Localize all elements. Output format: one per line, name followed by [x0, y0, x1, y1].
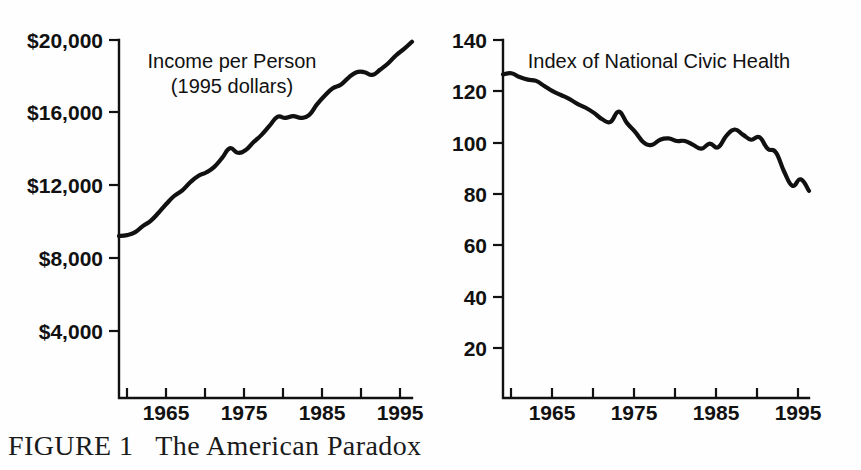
civic-y-tick-label: 40 [464, 286, 487, 309]
income-x-tick-marks [127, 388, 400, 398]
civic-x-tick-marks [511, 388, 798, 398]
civic-x-tick-label: 1995 [775, 401, 822, 424]
civic-y-tick-label: 120 [452, 80, 487, 103]
civic-y-tick-label: 100 [452, 132, 487, 155]
income-x-tick-label: 1985 [299, 401, 346, 424]
figure-caption-text: The American Paradox [155, 430, 421, 462]
income-y-tick-label: $4,000 [39, 320, 103, 343]
civic-axis-lines [503, 40, 809, 398]
civic-y-axis-labels: 140 120 100 80 60 40 20 [452, 29, 487, 360]
civic-x-tick-label: 1975 [611, 401, 658, 424]
civic-y-tick-label: 60 [464, 234, 487, 257]
income-x-axis-labels: 1965 1975 1985 1995 [143, 401, 424, 424]
figure-container: $20,000 $16,000 $12,000 $8,000 $4,000 [0, 0, 861, 470]
civic-x-axis-labels: 1965 1975 1985 1995 [529, 401, 822, 424]
civic-y-tick-label: 80 [464, 183, 487, 206]
civic-y-tick-label: 140 [452, 29, 487, 52]
income-y-axis-labels: $20,000 $16,000 $12,000 $8,000 $4,000 [27, 29, 103, 343]
income-x-tick-label: 1965 [143, 401, 190, 424]
income-chart-svg: $20,000 $16,000 $12,000 $8,000 $4,000 [0, 0, 430, 425]
income-chart-subtitle: (1995 dollars) [171, 75, 293, 97]
income-y-tick-label: $12,000 [27, 174, 103, 197]
income-y-tick-marks [109, 40, 119, 331]
income-y-tick-label: $20,000 [27, 29, 103, 52]
civic-x-tick-label: 1965 [529, 401, 576, 424]
income-x-tick-label: 1995 [377, 401, 424, 424]
civic-x-tick-label: 1985 [693, 401, 740, 424]
income-y-tick-label: $8,000 [39, 247, 103, 270]
chart-panel-income-per-person: $20,000 $16,000 $12,000 $8,000 $4,000 [0, 0, 430, 425]
civic-chart-svg: 140 120 100 80 60 40 20 [431, 0, 861, 425]
figure-caption-label: FIGURE 1 [8, 430, 133, 462]
civic-chart-title: Index of National Civic Health [528, 50, 790, 72]
civic-data-line [503, 73, 809, 191]
income-x-tick-label: 1975 [221, 401, 268, 424]
chart-panel-index-of-national-civic-health: 140 120 100 80 60 40 20 [431, 0, 861, 425]
figure-caption: FIGURE 1 The American Paradox [8, 424, 628, 468]
civic-y-tick-marks [493, 40, 503, 348]
income-chart-title: Income per Person [148, 50, 317, 72]
income-y-tick-label: $16,000 [27, 101, 103, 124]
civic-y-tick-label: 20 [464, 337, 487, 360]
